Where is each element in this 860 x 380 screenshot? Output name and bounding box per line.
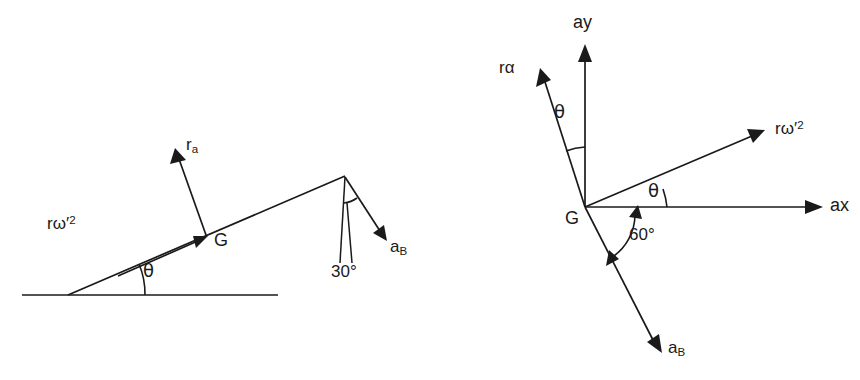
theta-arc-lower-right [663, 189, 667, 207]
r-alpha-vector [545, 82, 585, 207]
label-r-a: ra [186, 136, 198, 156]
figure-root: rω′2 ra G θ 30° aB ay ax G rα rω′2 θ θ 6… [0, 0, 860, 380]
figure-canvas [0, 0, 860, 380]
ay-axis-arrowhead [578, 44, 592, 62]
label-a-B-right-subscript: B [677, 346, 685, 358]
label-r-omega-squared-left-base: rω′ [47, 214, 69, 233]
label-r-alpha: rα [499, 59, 515, 76]
label-r-omega-squared-right-exponent: 2 [797, 119, 803, 131]
label-theta-upper-right: θ [554, 103, 565, 121]
label-r-a-subscript: a [192, 143, 198, 155]
a-B-arrowhead-right [647, 334, 662, 353]
r-a-vector [179, 159, 206, 235]
r-omega-squared-arrowhead-left [193, 236, 208, 248]
theta-arc-upper-right [566, 147, 585, 151]
label-r-omega-squared-right-base: rω′ [775, 119, 797, 138]
r-alpha-arrowhead [536, 68, 551, 87]
label-ax-axis: ax [830, 196, 849, 214]
label-G-left: G [214, 231, 228, 249]
r-omega-squared-vector-left [118, 240, 200, 276]
label-a-B-left-subscript: B [399, 245, 407, 257]
label-r-omega-squared-right: rω′2 [775, 120, 804, 137]
a-B-arrowhead-left [373, 225, 387, 241]
label-a-B-left: aB [390, 238, 407, 258]
ax-axis-arrowhead [805, 200, 823, 214]
label-r-omega-squared-left-exponent: 2 [69, 214, 75, 226]
incline-line [68, 176, 345, 295]
apex-vertical-reference [340, 177, 345, 263]
right-diagram-group [536, 44, 823, 353]
angle-30-arc [344, 198, 357, 203]
r-omega-squared-arrowhead-right [747, 129, 765, 143]
label-angle-60: 60° [629, 226, 655, 243]
r-a-arrowhead [170, 148, 186, 164]
r-omega-squared-vector-right [585, 136, 752, 207]
label-ay-axis: ay [573, 13, 592, 31]
label-theta-lower-right: θ [648, 182, 659, 200]
label-r-omega-squared-left: rω′2 [47, 215, 76, 232]
label-G-right: G [565, 209, 579, 227]
label-theta-left: θ [143, 262, 154, 280]
angle-30-leader-line [347, 203, 352, 263]
a-B-vector-left [345, 177, 380, 231]
label-a-B-right: aB [668, 339, 685, 359]
label-angle-30: 30° [331, 263, 357, 280]
